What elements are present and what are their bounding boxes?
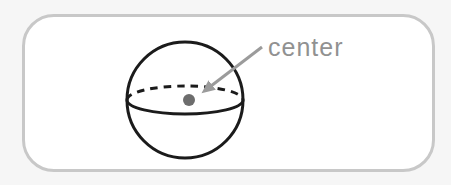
center-dot (183, 94, 195, 106)
page-background: { "figure": { "label": "center", "colors… (0, 0, 451, 185)
sphere-diagram: center (0, 0, 451, 185)
center-label: center (268, 33, 343, 61)
